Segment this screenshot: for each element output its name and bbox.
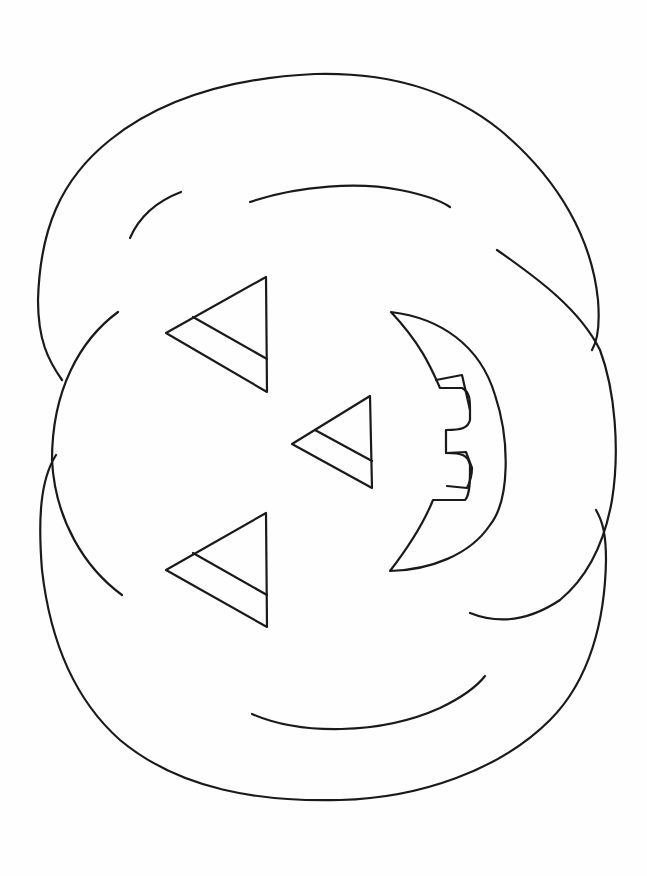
rib-curve-bottom xyxy=(252,676,485,729)
nose-triangle xyxy=(292,396,372,488)
coloring-page: Jack-o'-lantern coloring page xyxy=(0,0,647,876)
left-eye-inner-line xyxy=(193,317,267,359)
rib-curve-top-left xyxy=(130,192,181,238)
rib-curve-top xyxy=(250,186,450,207)
mouth-tooth-lower xyxy=(446,452,472,488)
nose-inner-line xyxy=(315,430,372,461)
pumpkin-drawing xyxy=(0,0,647,876)
right-eye-triangle xyxy=(166,513,267,627)
pumpkin-middle-lobe-right xyxy=(470,250,616,619)
crescent-mouth xyxy=(390,312,506,571)
right-eye-inner-line xyxy=(193,553,267,595)
pumpkin-top-lobe xyxy=(38,74,599,380)
pumpkin-middle-lobe xyxy=(52,312,122,595)
left-eye-triangle xyxy=(166,277,267,392)
pumpkin-bottom-lobe xyxy=(40,455,606,800)
mouth-tooth-upper xyxy=(436,375,470,410)
